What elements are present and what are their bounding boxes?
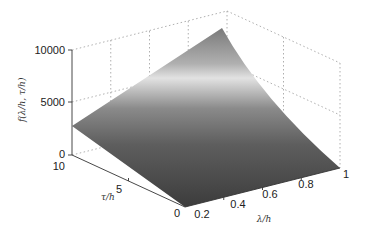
x-tick-label: 0.8 — [298, 178, 313, 190]
z-axis-label: f(λ/h, τ/h) — [17, 77, 27, 123]
y-tick-label: 5 — [116, 183, 122, 195]
x-tick-label: 0.2 — [194, 208, 209, 220]
y-axis-label: τ/h — [101, 192, 115, 202]
x-tick-label: 0.6 — [262, 188, 277, 200]
x-axis-label: λ/h — [256, 214, 272, 224]
z-tick-label: 5000 — [41, 96, 65, 108]
surface-plot: 10000 5000 0 10 5 0 0.2 0.4 0.6 0.8 1 f(… — [0, 0, 365, 234]
y-tick-label: 0 — [174, 207, 180, 219]
y-tick-label: 10 — [53, 160, 65, 172]
x-tick-label: 1 — [343, 168, 349, 180]
z-tick-label: 0 — [59, 148, 65, 160]
x-tick-label: 0.4 — [230, 198, 245, 210]
z-tick-label: 10000 — [34, 44, 65, 56]
